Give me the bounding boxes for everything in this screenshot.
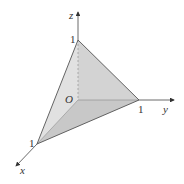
y-axis-label: y — [162, 103, 168, 115]
front-face — [37, 40, 139, 144]
z-axis-label: z — [68, 9, 74, 21]
origin-label: O — [65, 93, 73, 105]
y-tick-label: 1 — [138, 103, 144, 115]
tetrahedron-diagram: z 1 O 1 y 1 x — [0, 0, 184, 184]
diagram-canvas: z 1 O 1 y 1 x — [0, 0, 184, 184]
x-tick-label: 1 — [29, 137, 35, 149]
x-axis-label: x — [19, 164, 25, 176]
z-tick-label: 1 — [70, 33, 76, 45]
